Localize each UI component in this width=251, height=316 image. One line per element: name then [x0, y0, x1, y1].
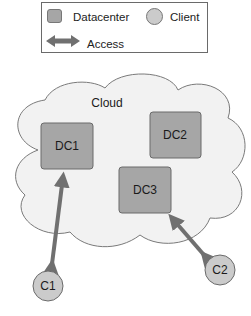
client-c2: C2 — [205, 255, 235, 285]
network-diagram: Cloud DC1 DC2 DC3 C1 C2 — [0, 0, 251, 316]
client-c1: C1 — [33, 271, 63, 301]
c2-label: C2 — [212, 263, 228, 277]
datacenter-dc3: DC3 — [119, 167, 171, 213]
datacenter-dc2: DC2 — [150, 112, 201, 158]
cloud-label: Cloud — [91, 96, 122, 110]
datacenter-dc1: DC1 — [41, 123, 93, 169]
dc1-label: DC1 — [55, 139, 79, 153]
c1-label: C1 — [40, 279, 56, 293]
dc3-label: DC3 — [133, 183, 157, 197]
dc2-label: DC2 — [163, 128, 187, 142]
